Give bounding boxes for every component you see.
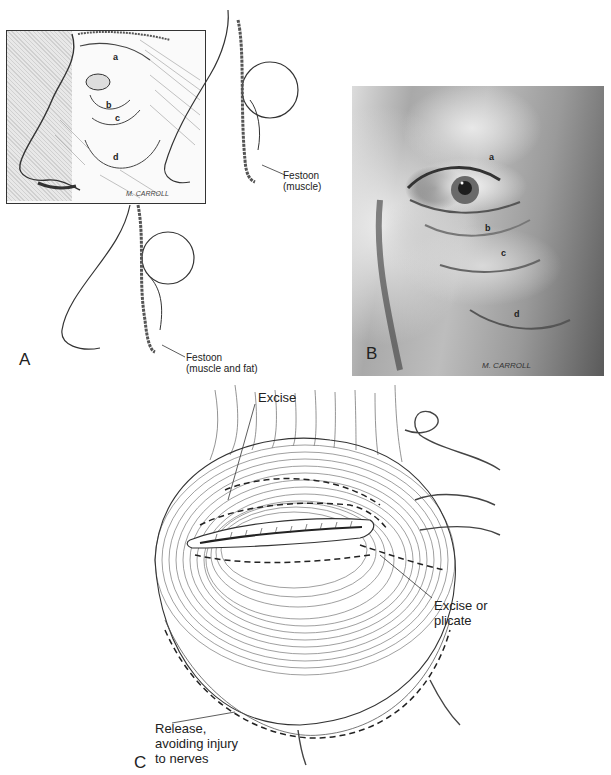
callout-excise: Excise xyxy=(258,390,296,405)
panel-letter-c: C xyxy=(134,753,146,773)
orbicularis-muscle-drawing xyxy=(0,0,611,775)
callout-release-avoiding-injury: Release, avoiding injury to nerves xyxy=(155,721,238,766)
callout-excise-or-plicate: Excise or plicate xyxy=(434,598,487,628)
